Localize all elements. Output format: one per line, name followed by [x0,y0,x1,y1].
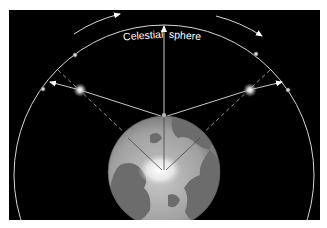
rotation-arrow-right [216,16,262,36]
rotation-arrow-left [74,14,120,34]
bright-star-left [73,83,87,97]
sphere-star [72,52,78,58]
celestial-sphere-diagram [9,10,320,220]
diagram-panel: Celestial sphere [9,10,320,220]
sphere-star [253,51,259,57]
earth-globe [108,116,222,220]
sphere-star [285,87,291,93]
sphere-star [40,86,46,92]
sphere-label: sphere [169,28,202,42]
line-to-right-star [164,90,249,117]
observer-marker [162,113,166,117]
bright-star-right [243,83,257,97]
line-to-left-star [80,90,164,117]
